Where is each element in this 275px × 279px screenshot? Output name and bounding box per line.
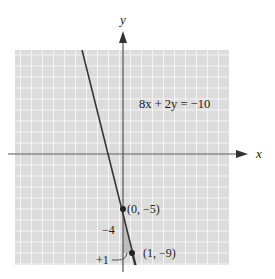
- x-axis-label: x: [255, 146, 262, 161]
- run-label: +1: [96, 253, 109, 267]
- point2-label: (1, −9): [143, 246, 176, 260]
- rise-label: −4: [102, 223, 115, 237]
- graph-canvas: y x 8x + 2y = −10 (0, −5) (1, −9) −4 +1: [0, 0, 275, 279]
- point1-label: (0, −5): [127, 202, 160, 216]
- point-1-neg9: [129, 250, 135, 256]
- grid-background: [15, 50, 229, 265]
- y-axis-arrow-icon: [119, 31, 127, 43]
- x-axis-arrow-icon: [236, 150, 248, 158]
- y-axis-label: y: [118, 12, 126, 27]
- point-0-neg5: [120, 206, 126, 212]
- equation-label: 8x + 2y = −10: [139, 97, 210, 111]
